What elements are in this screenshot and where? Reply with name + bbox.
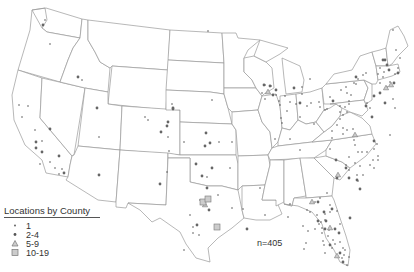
marker-2-4 [166,125,169,128]
marker-1 [278,100,280,102]
marker-1 [321,227,323,229]
marker-1 [259,187,261,189]
marker-2-4 [338,232,341,235]
marker-1 [299,116,301,118]
marker-1 [322,240,324,242]
marker-1 [306,105,308,107]
marker-1 [309,78,311,80]
marker-1 [313,123,315,125]
marker-2-4 [325,220,328,223]
marker-2-4 [332,100,335,103]
marker-2-4 [58,155,61,158]
marker-2-4 [42,24,45,27]
marker-1 [379,82,381,84]
marker-1 [198,234,200,236]
marker-1 [376,143,378,145]
marker-2-4 [335,159,338,162]
marker-2-4 [209,142,212,145]
marker-1 [206,176,208,178]
marker-2-4 [96,107,99,110]
marker-1 [394,107,396,109]
marker-1 [171,103,173,105]
marker-2-4 [386,64,389,67]
marker-1 [362,174,364,176]
marker-1 [305,242,307,244]
marker-1 [289,101,291,103]
marker-1 [331,130,333,132]
marker-1 [392,29,394,31]
marker-1 [279,104,281,106]
marker-1 [327,235,329,237]
marker-1 [341,257,343,259]
marker-1 [318,101,320,103]
marker-2-4 [382,59,385,62]
marker-1 [383,71,385,73]
marker-1 [264,98,266,100]
marker-2-4 [201,175,204,178]
marker-1 [342,127,344,129]
marker-1 [314,201,316,203]
marker-2-4 [272,94,275,97]
marker-1 [346,129,348,131]
marker-1 [61,168,63,170]
marker-2-4 [393,82,396,85]
marker-1 [27,105,29,107]
marker-2-4 [373,95,376,98]
legend-item-1: 1 [10,221,100,230]
small-dot-icon [10,221,20,230]
marker-1 [81,79,83,81]
marker-2-4 [275,89,278,92]
marker-2-4 [329,244,332,247]
marker-2-4 [348,177,351,180]
marker-1 [217,194,219,196]
marker-1 [356,174,358,176]
marker-1 [339,241,341,243]
marker-2-4 [371,116,374,119]
marker-1 [353,82,355,84]
marker-1 [339,118,341,120]
marker-1 [348,256,350,258]
marker-1 [167,136,169,138]
legend-item-5-9: 5-9 [10,239,100,248]
marker-2-4 [206,187,209,190]
marker-1 [183,249,185,251]
marker-1 [359,165,361,167]
marker-1 [302,225,304,227]
marker-1 [382,76,384,78]
marker-1 [373,148,375,150]
marker-1 [287,216,289,218]
marker-1 [345,86,347,88]
marker-1 [289,138,291,140]
marker-1 [342,247,344,249]
marker-1 [354,144,356,146]
marker-2-4 [293,87,296,90]
marker-1 [316,214,318,216]
marker-1 [21,116,23,118]
marker-2-4 [349,217,352,220]
marker-1 [309,211,311,213]
marker-2-4 [35,147,38,150]
marker-1 [242,208,244,210]
legend-item-2-4: 2-4 [10,230,100,239]
marker-1 [34,129,36,131]
marker-1 [377,73,379,75]
marker-1 [332,239,334,241]
marker-1 [264,214,266,216]
marker-1 [348,100,350,102]
marker-2-4 [167,121,170,124]
marker-2-4 [204,145,207,148]
marker-1 [54,167,56,169]
marker-2-4 [345,167,348,170]
marker-1 [331,247,333,249]
marker-1 [274,138,276,140]
marker-2-4 [196,224,199,227]
marker-1 [218,141,220,143]
marker-1 [18,104,20,106]
star-dot-icon [10,230,20,239]
marker-2-4 [373,140,376,143]
marker-1 [354,162,356,164]
marker-1 [369,164,371,166]
marker-2-4 [317,201,320,204]
marker-1 [366,102,368,104]
legend-list: 1 2-4 5-9 10-19 [10,221,100,257]
